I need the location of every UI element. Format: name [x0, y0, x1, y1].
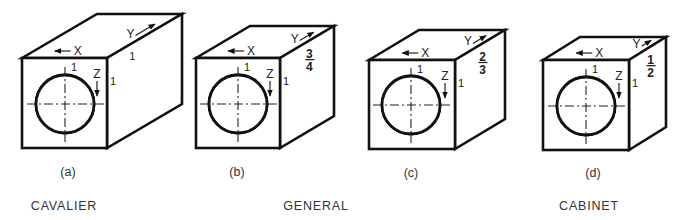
x-axis-label: X	[421, 46, 429, 60]
fraction-numerator: 1	[647, 53, 654, 67]
projection-type-caption: CAVALIER	[31, 199, 97, 213]
subfigure-label: (b)	[229, 165, 244, 179]
panel-a: XY1Z11(a)	[22, 14, 182, 179]
depth-unit-label: 1	[129, 50, 135, 62]
panels-group: XY1Z11(a)XY34Z11(b)XY23Z11(c)XY12Z11(d)	[22, 14, 666, 180]
y-axis-label: Y	[633, 37, 641, 51]
unit-label-top: 1	[71, 61, 77, 73]
projection-type-caption: GENERAL	[283, 199, 348, 213]
oblique-projection-diagram: XY1Z11(a)XY34Z11(b)XY23Z11(c)XY12Z11(d) …	[0, 0, 679, 220]
y-axis-label: Y	[464, 34, 472, 48]
fraction-numerator: 2	[479, 50, 486, 64]
fraction-denominator: 4	[306, 60, 313, 74]
panel-b: XY34Z11(b)	[196, 26, 334, 179]
unit-label-top: 1	[244, 61, 250, 73]
unit-label-side: 1	[110, 75, 116, 87]
panel-d: XY12Z11(d)	[543, 37, 666, 180]
unit-label-side: 1	[458, 77, 464, 89]
y-axis-label: Y	[126, 27, 134, 41]
fraction-denominator: 3	[479, 63, 486, 77]
subfigure-label: (c)	[404, 166, 419, 180]
x-axis-label: X	[595, 46, 603, 60]
unit-label-side: 1	[283, 75, 289, 87]
subfigure-label: (a)	[60, 165, 75, 179]
subfigure-label: (d)	[585, 166, 600, 180]
z-axis-label: Z	[441, 69, 448, 83]
unit-label-top: 1	[592, 63, 598, 75]
projection-type-caption: CABINET	[559, 199, 619, 213]
y-axis-label: Y	[291, 32, 299, 46]
x-axis-label: X	[247, 44, 255, 58]
x-axis-label: X	[74, 44, 82, 58]
fraction-denominator: 2	[647, 66, 654, 80]
unit-label-side: 1	[632, 77, 638, 89]
captions-group: CAVALIERGENERALCABINET	[31, 199, 619, 213]
z-axis-label: Z	[93, 67, 100, 81]
panel-c: XY23Z11(c)	[369, 30, 505, 180]
fraction-numerator: 3	[306, 47, 313, 61]
unit-label-top: 1	[417, 63, 423, 75]
z-axis-label: Z	[615, 69, 622, 83]
z-axis-label: Z	[266, 67, 273, 81]
